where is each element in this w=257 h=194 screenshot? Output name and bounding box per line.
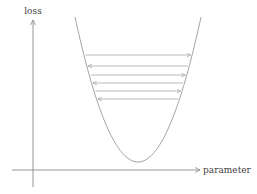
- loss-curve: [75, 17, 201, 162]
- y-axis-label: loss: [24, 6, 42, 16]
- loss-landscape-diagram: loss parameter: [0, 0, 257, 194]
- x-axis-label: parameter: [203, 165, 252, 175]
- gradient-steps: [85, 55, 190, 99]
